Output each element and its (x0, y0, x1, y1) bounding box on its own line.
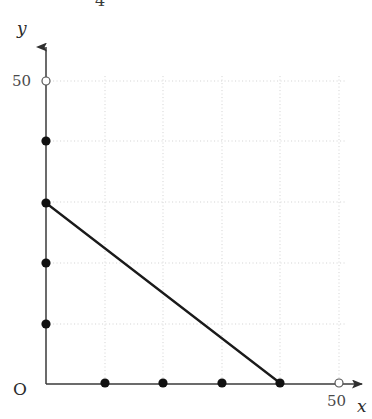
lattice-point (217, 378, 226, 387)
lattice-point (41, 319, 50, 328)
y-tick-label-50: 50 (12, 72, 31, 90)
x-tick-label-50: 50 (327, 392, 346, 410)
open-marker-group (42, 77, 343, 387)
lattice-point (41, 258, 50, 267)
open-marker-y-50 (42, 77, 50, 85)
x-axis-label: x (357, 396, 367, 416)
gridlines-horizontal (46, 81, 345, 324)
lattice-point (41, 136, 50, 145)
lattice-point (275, 378, 284, 387)
lattice-point-group-x-axis (100, 378, 284, 387)
plot-canvas (0, 0, 372, 419)
origin-label: O (13, 379, 27, 399)
lattice-point (100, 378, 109, 387)
y-axis-label: y (17, 18, 27, 38)
lattice-point (158, 378, 167, 387)
lattice-point (41, 198, 50, 207)
open-marker-x-50 (335, 379, 343, 387)
figure-container: 4 (0, 0, 372, 419)
